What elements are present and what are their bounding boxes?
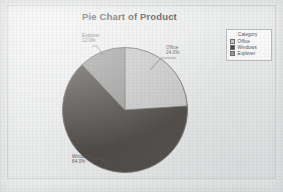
legend-swatch-explorer: [230, 51, 235, 56]
legend: Category OfficeWindowsExplorer: [226, 29, 272, 61]
legend-rows: OfficeWindowsExplorer: [230, 39, 269, 56]
pie-slice-office: [125, 48, 187, 111]
legend-label-explorer: Explorer: [238, 51, 256, 56]
slice-label-office: Office 24.0%: [166, 45, 180, 56]
legend-label-office: Office: [238, 39, 251, 44]
legend-label-windows: Windows: [238, 45, 257, 50]
slice-label-explorer: Explorer 12.0%: [82, 33, 100, 44]
scanned-page: Pie Chart of Product Office 24.0% Window…: [0, 0, 283, 192]
slice-label-windows-percent: 64.0%: [72, 159, 91, 164]
legend-item-explorer: Explorer: [230, 51, 269, 56]
legend-item-office: Office: [230, 39, 269, 44]
slice-label-office-percent: 24.0%: [166, 50, 180, 55]
slice-label-explorer-percent: 12.0%: [82, 38, 100, 43]
slice-label-windows: Windows 64.0%: [72, 154, 91, 165]
legend-item-windows: Windows: [230, 45, 269, 50]
legend-swatch-windows: [230, 45, 235, 50]
legend-swatch-office: [230, 39, 235, 44]
chart-title: Pie Chart of Product: [0, 11, 259, 22]
legend-title: Category: [238, 32, 269, 37]
